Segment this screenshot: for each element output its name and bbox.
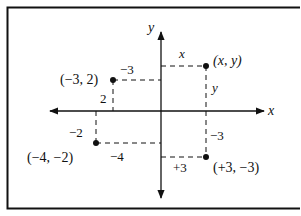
- vertical-distance-label: 2: [100, 91, 107, 106]
- figure-frame: [8, 8, 301, 209]
- horizontal-distance-label: x: [178, 46, 185, 61]
- point-dot: [110, 77, 116, 83]
- vertical-distance-label: −3: [210, 128, 224, 143]
- horizontal-distance-label: −3: [120, 62, 134, 77]
- vertical-distance-label: −2: [69, 125, 83, 140]
- horizontal-distance-label: +3: [173, 160, 187, 175]
- point-dot: [203, 63, 209, 69]
- point-dot: [93, 140, 99, 146]
- point-general: (x, y) x y: [161, 46, 242, 111]
- point-label: (−3, 2): [60, 72, 99, 88]
- point-label: (x, y): [213, 53, 242, 69]
- coordinate-plane-diagram: x y (x, y) x y (−3, 2) −3 2 (−4, −2) −4 …: [0, 0, 300, 216]
- vertical-distance-label: y: [210, 80, 218, 95]
- x-axis-label: x: [267, 103, 275, 118]
- horizontal-distance-label: −4: [110, 149, 124, 164]
- point-neg3-2: (−3, 2) −3 2: [60, 62, 161, 111]
- point-dot: [203, 154, 209, 160]
- point-label: (−4, −2): [27, 150, 73, 166]
- point-pos3-neg3: (+3, −3) +3 −3: [161, 111, 259, 176]
- point-label: (+3, −3): [213, 160, 259, 176]
- point-neg4-neg2: (−4, −2) −4 −2: [27, 111, 161, 166]
- y-axis-label: y: [146, 20, 155, 35]
